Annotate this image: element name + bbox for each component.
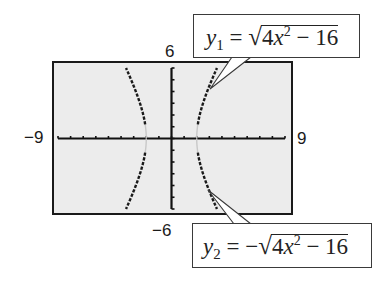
radicand-exp: 2 xyxy=(284,24,291,39)
radicand-exp: 2 xyxy=(294,233,301,248)
radicand-var: x xyxy=(283,234,293,259)
eq-equals: = xyxy=(221,234,245,259)
radicand-coef: 4 xyxy=(272,234,284,259)
radicand-var: x xyxy=(273,25,283,50)
y-max-label: 6 xyxy=(165,43,174,60)
eq-neg: − xyxy=(245,234,258,259)
radicand-const: − 16 xyxy=(291,25,338,50)
eq-subscript: 1 xyxy=(216,37,224,53)
y-min-label: −6 xyxy=(152,222,171,239)
radicand: 4x2 − 16 xyxy=(261,25,338,50)
radicand-const: − 16 xyxy=(301,234,348,259)
sqrt-icon: √ xyxy=(248,23,262,50)
hyperbola-figure: 6 −6 −9 9 y1 = √4x2 − 16 y2 = −√4x2 − 16 xyxy=(0,0,390,284)
sqrt-icon: √ xyxy=(258,232,272,259)
eq-subscript: 2 xyxy=(213,246,221,262)
radicand: 4x2 − 16 xyxy=(271,234,348,259)
x-min-label: −9 xyxy=(24,129,43,146)
equation-callout-y1: y1 = √4x2 − 16 xyxy=(193,14,360,58)
eq-var: y xyxy=(203,234,213,259)
eq-equals: = xyxy=(224,25,248,50)
radicand-coef: 4 xyxy=(262,25,274,50)
equation-callout-y2: y2 = −√4x2 − 16 xyxy=(192,223,372,268)
x-max-label: 9 xyxy=(297,130,306,147)
eq-var: y xyxy=(206,25,216,50)
